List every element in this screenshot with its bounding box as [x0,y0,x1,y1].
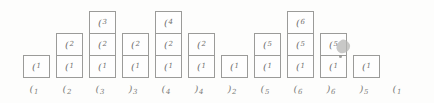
stack-box: (3 [89,11,116,34]
subscript: 5 [265,88,269,96]
sequence-token: (5 [261,84,270,96]
stack-column: (6(5(1 [287,11,314,78]
stack-box: (1 [89,55,116,78]
sequence-token: )4 [195,84,204,96]
subscript: 1 [267,63,271,70]
stack-box: (1 [254,55,281,78]
sequence-token: (1 [393,84,402,96]
stack-box: (1 [122,55,149,78]
subscript: 1 [36,63,40,70]
subscript: 2 [168,41,172,48]
stack-box: (1 [353,55,380,78]
sequence-token: )2 [228,84,237,96]
subscript: 3 [100,88,104,96]
stack-box: (1 [320,55,347,78]
subscript: 5 [300,41,304,48]
stack-box: (2 [155,33,182,56]
stack-diagram-figure: (1(2(1(3(2(1(2(1(4(2(1(2(1(1(5(1(6(5(1(5… [0,0,434,103]
stack-box: (2 [89,33,116,56]
stack-column: (1 [23,55,50,78]
subscript: 1 [102,63,106,70]
subscript: 2 [67,88,71,96]
subscript: 2 [201,41,205,48]
sequence-token: (1 [30,84,39,96]
subscript: 4 [166,88,170,96]
subscript: 1 [34,88,38,96]
stack-box: (2 [122,33,149,56]
subscript: 1 [135,63,139,70]
subscript: 6 [300,19,304,26]
sequence-token: (2 [63,84,72,96]
sequence-token: (4 [162,84,171,96]
stack-box: (2 [188,33,215,56]
stack-box: (4 [155,11,182,34]
stack-box: (1 [188,55,215,78]
stack-box: (1 [23,55,50,78]
stack-box: (1 [287,55,314,78]
stack-box: (6 [287,11,314,34]
subscript: 5 [364,88,368,96]
stack-box: (1 [155,55,182,78]
subscript: 1 [333,63,337,70]
stack-column: (2(1 [122,33,149,78]
subscript: 4 [199,88,203,96]
subscript: 1 [234,63,238,70]
sequence-token: )3 [129,84,138,96]
sequence-token: (3 [96,84,105,96]
subscript: 1 [201,63,205,70]
stack-column: (2(1 [56,33,83,78]
subscript: 3 [133,88,137,96]
stack-column: (3(2(1 [89,11,116,78]
stack-box: (5 [254,33,281,56]
subscript: 6 [298,88,302,96]
stack-column: (5(1 [254,33,281,78]
stack-box: (1 [221,55,248,78]
stack-box: (1 [56,55,83,78]
subscript: 5 [267,41,271,48]
subscript: 2 [102,41,106,48]
sequence-token: )5 [360,84,369,96]
stack-column: (4(2(1 [155,11,182,78]
subscript: 1 [397,88,401,96]
subscript: 2 [69,41,73,48]
subscript: 2 [135,41,139,48]
stack-box: (2 [56,33,83,56]
subscript: 1 [69,63,73,70]
stack-column: (2(1 [188,33,215,78]
subscript: 3 [102,19,106,26]
pencil-dot-mark [339,55,342,58]
subscript: 1 [168,63,172,70]
sequence-token: (6 [294,84,303,96]
subscript: 6 [331,88,335,96]
subscript: 2 [232,88,236,96]
stack-column: (1 [353,55,380,78]
subscript: 4 [168,19,172,26]
subscript: 1 [300,63,304,70]
stack-column: (1 [221,55,248,78]
stack-box: (5 [287,33,314,56]
subscript: 1 [366,63,370,70]
sequence-token: )6 [327,84,336,96]
